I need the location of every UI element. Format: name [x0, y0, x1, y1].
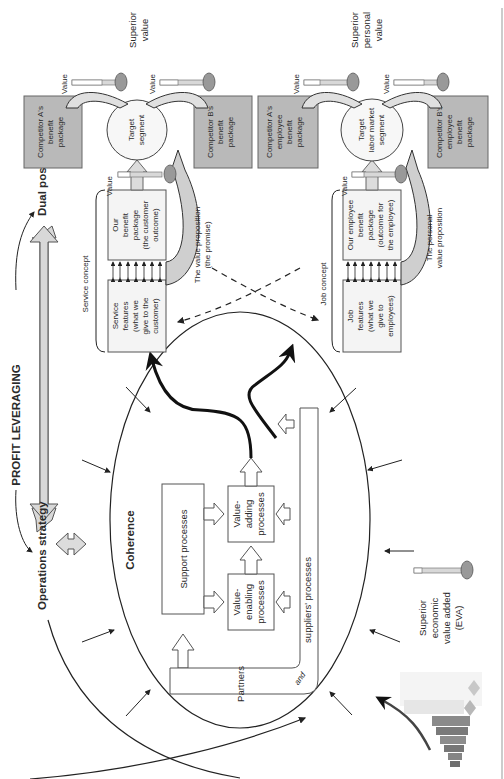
value-adding-line-3: processes [255, 492, 266, 536]
superior-personal-value-line: Superior [349, 12, 360, 48]
competitor-a-line: Competitor A's [36, 106, 45, 158]
eva-growth-bars-icon [400, 672, 482, 767]
outer-arc-to-eva [30, 718, 305, 779]
coherence-label: Coherence [124, 510, 136, 569]
job-benefit-line: package [366, 209, 375, 240]
job-competitor-b-line: benefit [455, 119, 464, 144]
job-benefit-line: benefit [356, 212, 365, 237]
competitor-a-value-gauge-icon [72, 73, 127, 91]
value-adding-line-1: Value- [231, 501, 242, 528]
service-value-proposition-label: The value proposition [193, 207, 202, 284]
job-concept-label: Job concept [319, 262, 328, 306]
diagram-canvas: PROFIT LEVERAGING Operations strategy Du… [0, 0, 504, 779]
eva-label-line: value added [441, 592, 452, 644]
eva-value-gauge-icon [414, 561, 473, 579]
target-labor-line: labor market [367, 107, 376, 152]
job-concept-brace [332, 190, 340, 352]
partners-label: Partners [235, 666, 246, 702]
coherence-double-arrow-icon [56, 533, 86, 555]
job-value-proposition-sublabel: value proposition [435, 208, 444, 268]
support-processes-label: Support processes [178, 509, 189, 588]
job-competitor-a-value-gauge-icon [304, 73, 359, 91]
operations-strategy-label: Operations strategy [36, 501, 48, 610]
profit-leveraging-arrow-up [16, 212, 34, 290]
eva-label-line: (EVA) [453, 606, 464, 631]
value-enabling-line-3: processes [255, 580, 266, 624]
competitor-a-line: benefit [46, 119, 55, 144]
job-features-line: give to [376, 304, 385, 328]
service-value-gauge-icon [118, 165, 176, 183]
dashed-arrow-job-to-service [212, 268, 318, 320]
suppliers-processes-label: suppliers' processes [302, 557, 313, 643]
outer-arc [48, 620, 240, 778]
service-value-label: Value [105, 176, 114, 196]
job-benefit-line: Our employee [346, 199, 355, 250]
job-competitor-a-value-label: Value [292, 74, 301, 94]
service-features-line: Service [111, 302, 120, 329]
job-features-line: Job [346, 309, 355, 322]
eva-label-line: economic [429, 597, 440, 638]
job-competitor-b-value-label: Value [382, 74, 391, 94]
job-features-line: employees) [386, 295, 395, 337]
service-features-line: give to the [141, 297, 150, 334]
job-competitor-a-line: package [295, 116, 304, 147]
job-value-label: Value [340, 176, 349, 196]
superior-personal-value-line: value [373, 19, 384, 42]
job-competitor-b-line: employee [445, 114, 454, 149]
job-competitor-b-line: package [465, 116, 474, 147]
service-benefit-line: benefit [121, 212, 130, 237]
job-value-gauge-icon [352, 165, 407, 183]
value-enabling-line-2: enabling [243, 584, 254, 620]
service-benefit-line: Our [111, 218, 120, 232]
target-labor-line: Target [357, 118, 366, 141]
competitor-a-value-label: Value [60, 74, 69, 94]
job-link-arrows [348, 262, 395, 278]
target-labor-line: segment [377, 114, 386, 145]
target-segment-line: Target [127, 118, 136, 141]
service-benefit-line: package [131, 209, 140, 240]
superior-personal-value-line: personal [361, 12, 372, 48]
competitor-a-curved-arrow [66, 92, 128, 108]
service-concept-brace [96, 190, 105, 352]
job-benefit-line: (outcome for [376, 202, 385, 247]
service-link-arrows [113, 262, 160, 278]
competitor-b-line: Competitor B's [206, 106, 215, 158]
job-competitor-b-curved-arrow [382, 92, 442, 108]
job-competitor-b-value-gauge-icon [394, 73, 449, 91]
job-benefit-line: the employee) [386, 199, 395, 250]
service-value-proposition-sublabel: (the promise) [203, 221, 212, 268]
service-features-line: customer) [151, 298, 160, 334]
superior-value-line: value [139, 19, 150, 42]
service-benefit-line: (the customer [141, 200, 150, 249]
double-arrow-gray [30, 226, 58, 520]
eva-label-line: Superior [417, 600, 428, 636]
competitor-a-line: package [56, 116, 65, 147]
job-competitor-a-curved-arrow [302, 92, 362, 108]
competitor-b-value-label: Value [148, 74, 157, 94]
job-features-line: features [356, 302, 365, 331]
target-segment-line: segment [137, 114, 146, 145]
competitor-b-value-gauge-icon [160, 73, 215, 91]
service-features-line: features [121, 302, 130, 331]
job-value-proposition-label: The personal [425, 214, 434, 261]
job-competitor-a-line: Competitor A's [265, 106, 274, 158]
service-benefit-line: outcome) [151, 208, 160, 242]
service-concept-label: Service concept [81, 255, 90, 313]
job-competitor-b-line: Competitor B's [435, 106, 444, 158]
profit-leveraging-arrow-down [16, 490, 32, 552]
job-competitor-a-line: employee [275, 114, 284, 149]
value-enabling-line-1: Value- [231, 589, 242, 616]
thick-arrow-to-service [152, 360, 251, 458]
competitor-b-line: benefit [216, 119, 225, 144]
profit-leveraging-title: PROFIT LEVERAGING [10, 364, 22, 485]
value-adding-line-2: adding [243, 500, 254, 529]
service-features-line: (what we [131, 299, 140, 332]
job-competitor-a-line: benefit [285, 119, 294, 144]
superior-value-line: Superior [127, 12, 138, 48]
job-features-line: (what we [366, 299, 375, 332]
competitor-b-line: package [226, 116, 235, 147]
